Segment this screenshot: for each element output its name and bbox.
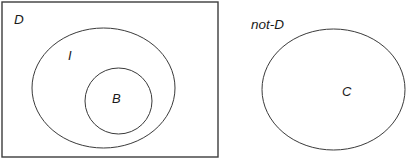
venn-diagram-canvas: D I B not-D C [0,0,414,165]
venn-diagram-svg: D I B not-D C [0,0,414,165]
ellipse-set-i [32,28,175,148]
universe-rectangle-d [2,2,218,157]
label-set-b: B [112,91,121,106]
label-complement-not-d: not-D [251,17,284,32]
label-universe-d: D [14,12,24,27]
ellipse-set-c [262,29,405,150]
label-set-c: C [342,84,352,99]
label-set-i: I [68,48,72,63]
